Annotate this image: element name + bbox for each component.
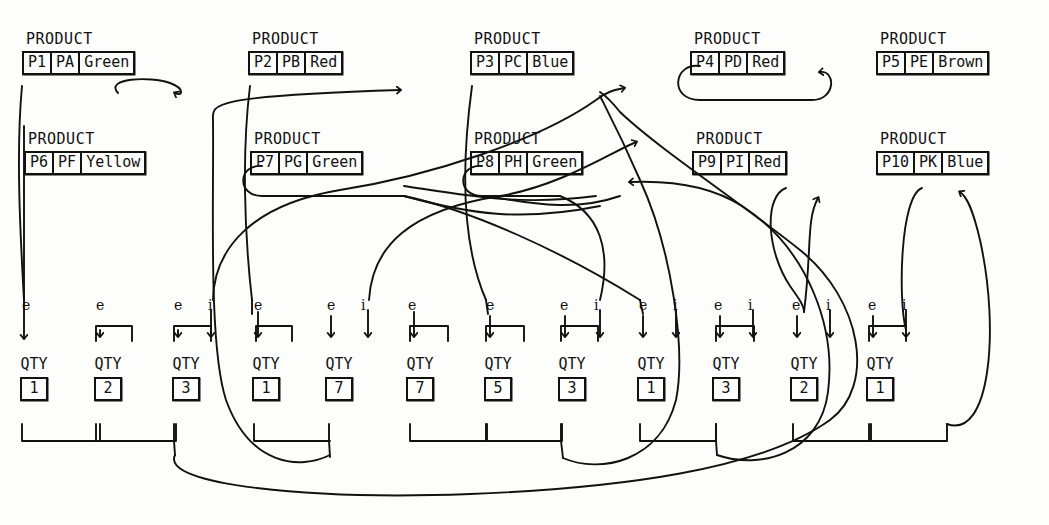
edge-role-label-e: e (714, 298, 722, 312)
product-id: P4 (692, 53, 720, 73)
product-record[interactable]: P4 PD Red (690, 51, 785, 75)
product-caption: PRODUCT (880, 132, 989, 147)
connector-wires (0, 0, 1049, 525)
qty-value: 5 (484, 377, 512, 401)
product-caption: PRODUCT (252, 32, 343, 47)
wire-qty2-top (96, 326, 132, 341)
product-caption: PRODUCT (880, 32, 989, 47)
product-caption: PRODUCT (694, 32, 785, 47)
qty-node-2[interactable]: QTY2 (94, 357, 122, 401)
edge-role-label-e: e (792, 298, 800, 312)
product-caption: PRODUCT (26, 32, 135, 47)
qty-caption: QTY (94, 357, 122, 372)
qty-caption: QTY (484, 357, 512, 372)
edge-role-label-i: i (361, 298, 365, 312)
qty-node-10[interactable]: QTY3 (712, 357, 740, 401)
product-code: PI (722, 153, 750, 173)
product-node-p1[interactable]: PRODUCT P1 PA Green (22, 32, 135, 75)
edge-role-label-i: i (208, 298, 212, 312)
product-color: Red (306, 53, 341, 73)
wire-p10-return (947, 192, 990, 426)
edge-role-label-e: e (327, 298, 335, 312)
edge-role-label-e: e (254, 298, 262, 312)
product-node-p7[interactable]: PRODUCT P7 PG Green (250, 132, 363, 175)
qty-node-1[interactable]: QTY1 (20, 357, 48, 401)
product-caption: PRODUCT (696, 132, 787, 147)
product-record[interactable]: P9 PI Red (692, 151, 787, 175)
product-id: P1 (24, 53, 52, 73)
product-node-p3[interactable]: PRODUCT P3 PC Blue (470, 32, 574, 75)
edge-role-label-e: e (868, 298, 876, 312)
wire-qty8-top (561, 326, 598, 341)
wire-qty7-top (486, 326, 524, 341)
product-record[interactable]: P7 PG Green (250, 151, 363, 175)
product-code: PB (278, 53, 306, 73)
product-id: P2 (250, 53, 278, 73)
product-id: P8 (472, 153, 500, 173)
qty-value: 1 (637, 377, 665, 401)
wire-qty5-return (329, 424, 330, 457)
edge-role-label-e: e (486, 298, 494, 312)
product-code: PE (906, 53, 934, 73)
product-color: Green (80, 53, 133, 73)
qty-node-9[interactable]: QTY1 (637, 357, 665, 401)
product-caption: PRODUCT (474, 32, 574, 47)
product-code: PC (500, 53, 528, 73)
product-node-p2[interactable]: PRODUCT P2 PB Red (248, 32, 343, 75)
product-node-p8[interactable]: PRODUCT P8 PH Green (470, 132, 583, 175)
product-caption: PRODUCT (28, 132, 146, 147)
qty-node-3[interactable]: QTY3 (172, 357, 200, 401)
wire-long-into-p8b (630, 182, 829, 461)
qty-node-5[interactable]: QTY7 (325, 357, 353, 401)
product-record[interactable]: P10 PK Blue (876, 151, 989, 175)
product-record[interactable]: P5 PE Brown (876, 51, 989, 75)
product-record[interactable]: P3 PC Blue (470, 51, 574, 75)
edge-role-label-e: e (639, 298, 647, 312)
qty-node-11[interactable]: QTY2 (790, 357, 818, 401)
qty-node-12[interactable]: QTY1 (866, 357, 894, 401)
edge-role-label-e: e (22, 298, 30, 312)
product-node-p4[interactable]: PRODUCT P4 PD Red (690, 32, 785, 75)
product-node-p10[interactable]: PRODUCT P10 PK Blue (876, 132, 989, 175)
edge-role-label-i: i (673, 298, 677, 312)
product-color: Brown (934, 53, 987, 73)
product-node-p6[interactable]: PRODUCT P6 PF Yellow (24, 132, 146, 175)
product-record[interactable]: P8 PH Green (470, 151, 583, 175)
edge-role-label-e: e (96, 298, 104, 312)
product-node-p5[interactable]: PRODUCT P5 PE Brown (876, 32, 989, 75)
edge-role-label-i: i (594, 298, 598, 312)
qty-value: 3 (558, 377, 586, 401)
product-color: Red (748, 53, 783, 73)
product-record[interactable]: P1 PA Green (22, 51, 135, 75)
product-record[interactable]: P6 PF Yellow (24, 151, 146, 175)
qty-value: 1 (252, 377, 280, 401)
qty-caption: QTY (325, 357, 353, 372)
wire-qty3-top (174, 326, 211, 341)
qty-value: 2 (94, 377, 122, 401)
qty-node-4[interactable]: QTY1 (252, 357, 280, 401)
product-record[interactable]: P2 PB Red (248, 51, 343, 75)
wire-qty12-top (869, 326, 906, 341)
product-code: PG (280, 153, 308, 173)
edge-role-label-i: i (748, 298, 752, 312)
wire-qty4-top (256, 326, 292, 341)
wire-member-into-p3 (213, 88, 624, 300)
qty-value: 3 (712, 377, 740, 401)
wire-qty3-return (174, 424, 175, 455)
wire-p1-self (115, 79, 181, 94)
qty-node-8[interactable]: QTY3 (558, 357, 586, 401)
wire-qty12-return (869, 424, 947, 441)
wire-qty2-return (96, 424, 176, 441)
qty-caption: QTY (558, 357, 586, 372)
product-color: Blue (943, 153, 987, 173)
edge-role-label-e: e (174, 298, 182, 312)
qty-node-7[interactable]: QTY5 (484, 357, 512, 401)
wire-qty9-return (640, 424, 716, 441)
product-node-p9[interactable]: PRODUCT P9 PI Red (692, 132, 787, 175)
qty-caption: QTY (637, 357, 665, 372)
edge-role-label-e: e (560, 298, 568, 312)
product-color: Green (308, 153, 361, 173)
diagram-canvas: PRODUCT P1 PA Green PRODUCT P2 PB Red PR… (0, 0, 1049, 525)
qty-node-6[interactable]: QTY7 (406, 357, 434, 401)
wire-qty10-top (716, 326, 754, 341)
